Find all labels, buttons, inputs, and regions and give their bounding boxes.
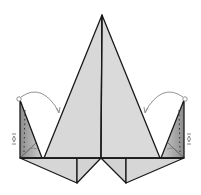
origami-diagram-svg (0, 0, 201, 195)
base-right-inner (101, 158, 126, 183)
left-side-flap (20, 100, 42, 158)
right-side-flap (161, 100, 184, 158)
base-right-flap (126, 158, 184, 183)
right-repeat-arrow-icon (187, 134, 191, 144)
left-repeat-arrow-icon (12, 134, 16, 144)
center-kite-right-half (101, 15, 160, 158)
base-left-inner (77, 158, 101, 183)
center-kite-left-half (44, 15, 102, 158)
base-left-flap (20, 158, 77, 183)
origami-diagram (0, 0, 201, 195)
